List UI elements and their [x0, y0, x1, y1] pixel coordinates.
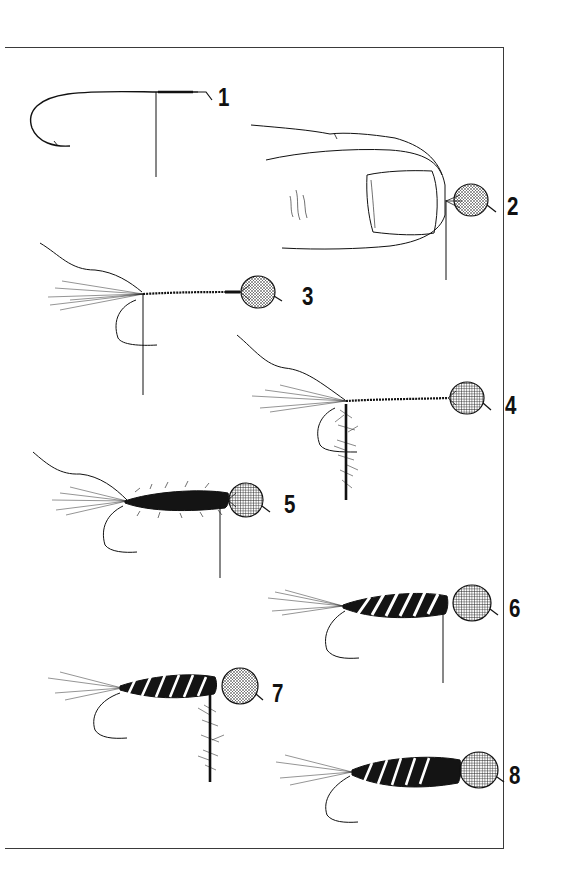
- step-6-drawing: [268, 585, 498, 683]
- step-number-2: 2: [507, 194, 518, 219]
- fly-tying-illustration: [0, 0, 577, 889]
- step-number-3: 3: [302, 284, 313, 309]
- step-number-1: 1: [218, 85, 229, 110]
- step-number-4: 4: [505, 393, 516, 418]
- step-1-drawing: [31, 92, 212, 178]
- step-3-drawing: [40, 243, 282, 395]
- step-number-6: 6: [509, 596, 520, 621]
- step-4-drawing: [237, 335, 491, 500]
- step-number-7: 7: [272, 681, 283, 706]
- step-number-8: 8: [509, 763, 520, 788]
- step-8-drawing: [276, 752, 504, 822]
- step-7-drawing: [48, 668, 263, 782]
- step-number-5: 5: [284, 492, 295, 517]
- step-5-drawing: [33, 452, 270, 578]
- step-2-drawing: [251, 125, 496, 280]
